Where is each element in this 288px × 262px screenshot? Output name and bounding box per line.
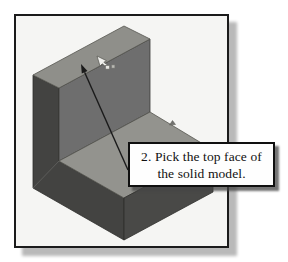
callout-text-line1: 2. Pick the top face of [141,148,262,165]
screenshot-canvas: 2. Pick the top face of the solid model. [0,0,288,262]
edge-marker-icon [170,121,176,126]
solid-model-illustration [0,0,288,262]
callout-text-line2: the solid model. [157,165,245,182]
callout-box: 2. Pick the top face of the solid model. [128,142,275,187]
